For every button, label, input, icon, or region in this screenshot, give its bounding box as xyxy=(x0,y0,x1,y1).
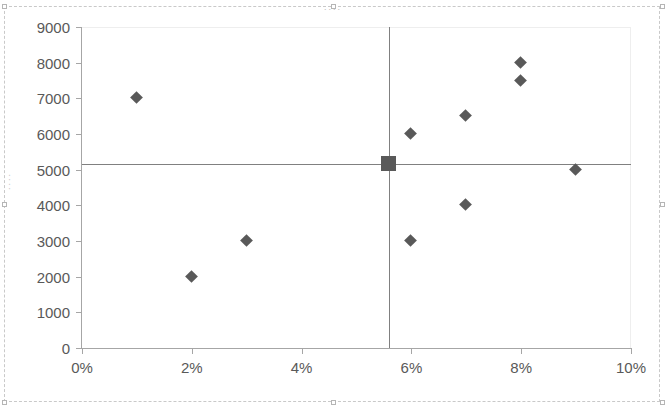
y-tick-label: 9000 xyxy=(10,20,70,35)
chart-container[interactable]: .... .... 010002000300040005000600070008… xyxy=(0,0,666,409)
x-tick-mark xyxy=(521,349,522,354)
y-tick-mark xyxy=(76,27,81,28)
x-tick-label: 10% xyxy=(601,360,661,376)
resize-handle-bottom-left[interactable] xyxy=(2,400,7,405)
horizontal-reference-line xyxy=(82,164,631,165)
y-axis-line xyxy=(81,27,82,349)
x-tick-mark xyxy=(631,349,632,354)
plot-area[interactable] xyxy=(82,27,631,348)
x-tick-mark xyxy=(302,349,303,354)
y-tick-label: 0 xyxy=(10,341,70,356)
x-tick-label: 4% xyxy=(272,360,332,376)
resize-handle-bottom-right[interactable] xyxy=(660,400,665,405)
y-tick-mark xyxy=(76,241,81,242)
y-tick-mark xyxy=(76,205,81,206)
average-marker[interactable] xyxy=(381,156,396,171)
y-tick-mark xyxy=(76,170,81,171)
x-tick-label: 2% xyxy=(162,360,222,376)
y-tick-mark xyxy=(76,312,81,313)
x-axis-line xyxy=(81,348,632,349)
x-tick-mark xyxy=(192,349,193,354)
x-tick-mark xyxy=(411,349,412,354)
y-tick-mark xyxy=(76,277,81,278)
y-tick-label: 2000 xyxy=(10,270,70,285)
y-tick-mark xyxy=(76,348,81,349)
resize-handle-middle-right[interactable] xyxy=(660,202,665,207)
y-tick-label: 6000 xyxy=(10,127,70,142)
y-tick-label: 3000 xyxy=(10,234,70,249)
y-tick-label: 4000 xyxy=(10,198,70,213)
y-tick-label: 1000 xyxy=(10,305,70,320)
resize-handle-middle-left[interactable] xyxy=(2,202,7,207)
y-tick-mark xyxy=(76,63,81,64)
y-tick-mark xyxy=(76,98,81,99)
y-tick-label: 8000 xyxy=(10,56,70,71)
x-tick-label: 8% xyxy=(491,360,551,376)
x-tick-mark xyxy=(82,349,83,354)
x-tick-label: 6% xyxy=(381,360,441,376)
y-tick-mark xyxy=(76,134,81,135)
x-tick-label: 0% xyxy=(52,360,112,376)
y-tick-label: 5000 xyxy=(10,163,70,178)
resize-handle-bottom-center[interactable] xyxy=(331,400,336,405)
vertical-reference-line xyxy=(389,27,390,348)
chart-title[interactable]: .... xyxy=(0,2,666,12)
y-tick-label: 7000 xyxy=(10,91,70,106)
